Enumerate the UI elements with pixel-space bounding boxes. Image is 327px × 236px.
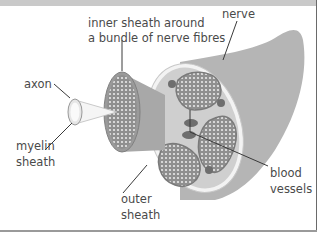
label-nerve: nerve xyxy=(222,7,255,21)
diagram-frame: inner sheath around a bundle of nerve fi… xyxy=(0,0,327,236)
label-myelin-line2: sheath xyxy=(16,155,55,169)
label-blood-line1: blood xyxy=(270,166,302,180)
label-inner-sheath-line2: a bundle of nerve fibres xyxy=(88,31,225,45)
label-myelin-line1: myelin xyxy=(16,139,55,153)
label-inner-sheath-line1: inner sheath around xyxy=(88,16,205,30)
label-blood-line2: vessels xyxy=(270,182,312,196)
label-outer-line2: sheath xyxy=(121,208,160,222)
label-outer-line1: outer xyxy=(121,192,152,206)
label-axon: axon xyxy=(24,77,52,91)
